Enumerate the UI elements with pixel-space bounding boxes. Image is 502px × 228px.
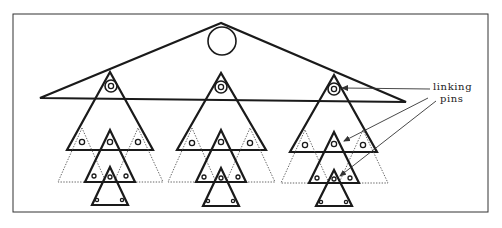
member-pin	[319, 200, 322, 203]
member-pin	[231, 199, 234, 202]
linking-pin-ring	[105, 80, 117, 92]
bottom-unit-triangle	[92, 167, 128, 205]
label-pins: pins	[440, 93, 464, 104]
label-linking: linking	[433, 81, 472, 92]
top-unit-triangle	[40, 23, 406, 102]
member-pin	[95, 198, 98, 201]
linking-pin-dot	[108, 83, 113, 88]
arrow-to-top-pin	[342, 88, 430, 89]
member-pin	[120, 198, 123, 201]
member-pin	[360, 142, 365, 147]
linking-pin	[107, 139, 112, 144]
member-pin	[315, 176, 319, 180]
sub-unit-triangle	[196, 130, 246, 182]
linking-pin	[331, 141, 336, 146]
top-unit	[40, 23, 406, 102]
member-pin	[206, 199, 209, 202]
linking-pin-dot	[331, 86, 336, 91]
group-right	[281, 75, 388, 206]
member-pin	[202, 175, 206, 179]
top-leader-circle	[208, 27, 236, 55]
linking-pin	[108, 175, 112, 179]
sub-unit-triangle	[309, 132, 359, 183]
arrow-to-mid-pin	[344, 98, 428, 141]
member-pin	[302, 142, 307, 147]
member-pin	[236, 175, 240, 179]
linking-pin-dot	[218, 84, 223, 89]
linking-pin	[218, 139, 223, 144]
bottom-unit-triangle	[203, 168, 239, 206]
linking-pin-diagram: linking pins	[0, 0, 502, 228]
member-pin	[247, 140, 252, 145]
linking-pin	[332, 177, 336, 181]
member-pin	[348, 176, 352, 180]
member-pin	[344, 200, 347, 203]
linking-pin-ring	[215, 81, 227, 93]
member-pin	[124, 174, 128, 178]
linking-pin	[219, 176, 223, 180]
member-pin	[92, 174, 96, 178]
member-pin	[79, 139, 84, 144]
member-pin	[189, 140, 194, 145]
group-center	[168, 73, 275, 206]
group-left	[58, 72, 163, 205]
member-pin	[135, 139, 140, 144]
linking-pin-ring	[328, 83, 340, 95]
